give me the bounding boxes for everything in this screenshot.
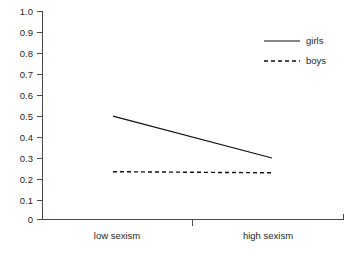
y-tick-label: 0.2 — [20, 174, 33, 185]
y-tick-label: 0.1 — [20, 195, 33, 206]
legend-label-boys: boys — [306, 55, 326, 66]
legend-label-girls: girls — [306, 35, 324, 46]
y-tick-label: 1.0 — [20, 6, 33, 17]
y-tick-label: 0.3 — [20, 153, 33, 164]
y-tick-label: 0.9 — [20, 27, 33, 38]
y-tick-label: 0.4 — [20, 132, 33, 143]
x-tick-label-low-sexism: low sexism — [94, 230, 141, 241]
y-tick-label: 0.7 — [20, 69, 33, 80]
y-tick-label: 0.6 — [20, 90, 33, 101]
y-tick-label: 0.8 — [20, 48, 33, 59]
y-tick-label: 0.5 — [20, 111, 33, 122]
y-tick-label: 0 — [28, 214, 33, 225]
chart-figure: 1.0 0.9 0.8 0.7 0.6 0.5 0.4 0.3 0.2 0.1 … — [0, 0, 360, 259]
x-tick-label-high-sexism: high sexism — [243, 230, 293, 241]
line-chart: 1.0 0.9 0.8 0.7 0.6 0.5 0.4 0.3 0.2 0.1 … — [0, 0, 360, 259]
